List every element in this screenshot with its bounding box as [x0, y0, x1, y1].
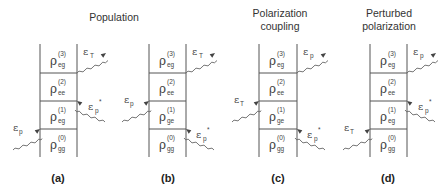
svg-text:p: p	[425, 107, 429, 115]
svg-text:(1): (1)	[388, 106, 396, 114]
density-rho2: ρ (2) ee	[50, 78, 66, 96]
svg-text:(1): (1)	[277, 106, 285, 114]
svg-text:(2): (2)	[388, 78, 396, 86]
svg-text:ρ: ρ	[50, 82, 57, 96]
svg-text:*: *	[207, 126, 210, 133]
title-polarization-coupling-line2: coupling	[260, 20, 299, 32]
density-rho0: ρ (0) gg	[159, 134, 175, 153]
svg-text:ee: ee	[167, 89, 175, 96]
svg-text:(1): (1)	[58, 106, 66, 114]
svg-text:ρ: ρ	[50, 110, 57, 124]
svg-text:p: p	[203, 135, 207, 143]
svg-text:eg: eg	[277, 61, 285, 69]
svg-text:p: p	[19, 128, 23, 136]
svg-text:ρ: ρ	[159, 54, 166, 68]
svg-text:p: p	[310, 52, 314, 60]
svg-text:ε: ε	[234, 94, 239, 105]
svg-text:(3): (3)	[277, 50, 285, 58]
density-rho1: ρ (1) ge	[269, 106, 285, 125]
density-rho0: ρ (0) gg	[380, 134, 396, 153]
svg-text:gg: gg	[388, 145, 396, 153]
density-rho3: ρ (3) eg	[380, 50, 396, 69]
svg-text:eg: eg	[167, 61, 175, 69]
density-rho2: ρ (2) ee	[269, 78, 285, 96]
svg-text:ge: ge	[277, 117, 285, 125]
svg-text:ρ: ρ	[50, 54, 57, 68]
density-rho3: ρ (3) eg	[269, 50, 285, 69]
density-rho0: ρ (0) gg	[269, 134, 285, 153]
title-perturbed-polarization-line1: Perturbed	[366, 7, 412, 19]
field-arrow-eps-p-conj: ε p *	[184, 126, 214, 150]
svg-text:ρ: ρ	[269, 110, 276, 124]
svg-text:(2): (2)	[277, 78, 285, 86]
svg-text:ε: ε	[88, 101, 93, 112]
svg-text:ε: ε	[344, 122, 349, 133]
panel-a: ρ (3) eg ρ (2) ee ρ (1) eg ρ (0) gg ε p	[13, 44, 108, 157]
svg-text:ρ: ρ	[159, 82, 166, 96]
svg-text:gg: gg	[277, 145, 285, 153]
field-arrow-eps-p-conj: ε p *	[295, 126, 325, 150]
svg-text:p: p	[314, 135, 318, 143]
svg-text:ε: ε	[83, 46, 88, 57]
density-rho3: ρ (3) eg	[159, 50, 175, 69]
svg-text:ρ: ρ	[50, 138, 57, 152]
feynman-diagrams: Population Polarization coupling Perturb…	[0, 0, 445, 195]
field-arrow-eps-p-conj: ε p *	[75, 98, 105, 122]
svg-text:ρ: ρ	[159, 110, 166, 124]
panel-label-c: (c)	[271, 172, 285, 184]
density-rho1: ρ (1) eg	[50, 106, 66, 125]
field-arrow-eps-p: ε p	[407, 46, 438, 73]
svg-text:gg: gg	[58, 145, 66, 153]
svg-text:ε: ε	[196, 129, 201, 140]
panel-label-a: (a)	[51, 172, 65, 184]
svg-text:ε: ε	[192, 46, 197, 57]
panel-label-b: (b)	[161, 172, 175, 184]
svg-text:T: T	[350, 128, 354, 135]
svg-text:T: T	[240, 100, 244, 107]
density-rho3: ρ (3) eg	[50, 50, 66, 69]
density-rho2: ρ (2) ee	[380, 78, 396, 96]
field-arrow-eps-p: ε p	[297, 46, 328, 73]
svg-text:ε: ε	[413, 46, 418, 57]
svg-text:(2): (2)	[58, 78, 66, 86]
svg-text:*: *	[318, 126, 321, 133]
svg-text:eg: eg	[388, 61, 396, 69]
svg-text:(0): (0)	[277, 134, 285, 142]
svg-text:gg: gg	[167, 145, 175, 153]
field-arrow-eps-t: ε T	[343, 122, 372, 150]
svg-text:T: T	[90, 52, 94, 59]
field-arrow-eps-t: ε T	[186, 46, 217, 73]
svg-text:(1): (1)	[167, 106, 175, 114]
svg-text:(3): (3)	[388, 50, 396, 58]
svg-text:ρ: ρ	[269, 138, 276, 152]
svg-text:*: *	[99, 98, 102, 105]
svg-text:ε: ε	[418, 101, 423, 112]
svg-text:eg: eg	[388, 117, 396, 125]
svg-text:ee: ee	[388, 89, 396, 96]
svg-text:ε: ε	[307, 129, 312, 140]
field-arrow-eps-p: ε p	[122, 94, 151, 122]
field-arrow-eps-t: ε T	[77, 46, 108, 73]
panel-label-d: (d)	[381, 172, 395, 184]
svg-text:(3): (3)	[167, 50, 175, 58]
svg-text:p: p	[130, 100, 134, 108]
svg-text:ρ: ρ	[380, 82, 387, 96]
panel-b: ρ (3) eg ρ (2) ee ρ (1) ge ρ (0) gg ε p …	[122, 44, 217, 157]
density-rho0: ρ (0) gg	[50, 134, 66, 153]
panel-c: ρ (3) eg ρ (2) ee ρ (1) ge ρ (0) gg ε p …	[232, 44, 328, 157]
svg-text:eg: eg	[58, 61, 66, 69]
title-perturbed-polarization-line2: polarization	[362, 20, 416, 32]
svg-text:ee: ee	[58, 89, 66, 96]
field-arrow-eps-t: ε T	[232, 94, 261, 122]
density-rho2: ρ (2) ee	[159, 78, 175, 96]
svg-text:(3): (3)	[58, 50, 66, 58]
density-rho1: ρ (1) eg	[380, 106, 396, 125]
svg-text:ε: ε	[303, 46, 308, 57]
panel-d: ρ (3) eg ρ (2) ee ρ (1) eg ρ (0) gg ε T	[343, 44, 438, 157]
svg-text:ρ: ρ	[159, 138, 166, 152]
svg-text:ε: ε	[13, 122, 18, 133]
svg-text:*: *	[429, 98, 432, 105]
density-rho1: ρ (1) ge	[159, 106, 175, 125]
svg-text:(0): (0)	[167, 134, 175, 142]
svg-text:(0): (0)	[388, 134, 396, 142]
